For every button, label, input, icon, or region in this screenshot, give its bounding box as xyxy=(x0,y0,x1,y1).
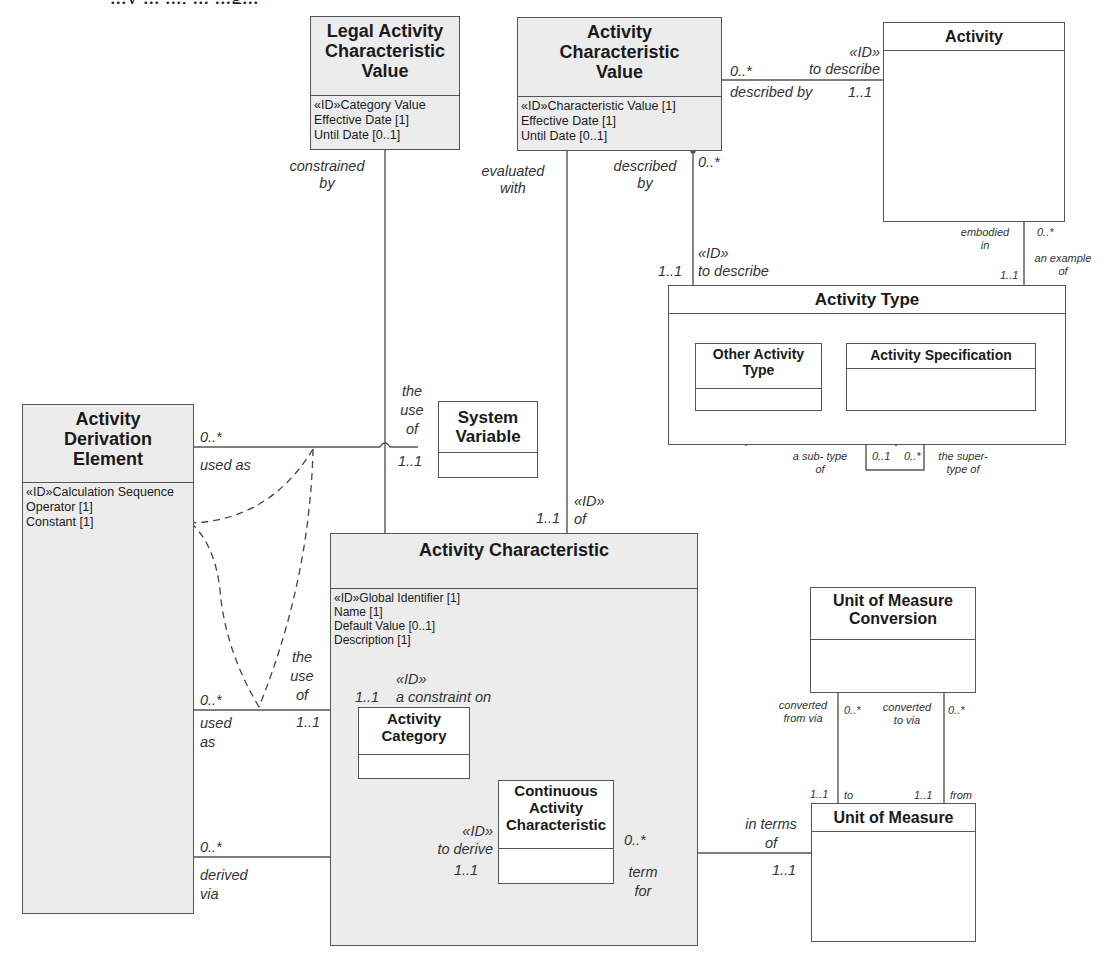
mult-subtype: 0..1 xyxy=(872,450,890,463)
mult-category: 1..1 xyxy=(355,689,379,706)
attribute: Default Value [0..1] xyxy=(334,619,694,633)
role-embodied-in: embodied in xyxy=(955,226,1015,252)
attribute: «ID»Characteristic Value [1] xyxy=(521,99,718,114)
class-attributes: «ID»Characteristic Value [1] Effective D… xyxy=(518,97,721,146)
class-system-variable[interactable]: System Variable xyxy=(438,401,538,478)
attribute: Name [1] xyxy=(334,605,694,619)
class-activity-category[interactable]: Activity Category xyxy=(358,707,470,779)
role-the-super-type-of: the super- type of xyxy=(928,450,998,476)
role-the-use-of-ac: the use of xyxy=(282,648,322,705)
class-title: Unit of Measure Conversion xyxy=(811,588,975,640)
class-unit-of-measure-conversion[interactable]: Unit of Measure Conversion xyxy=(810,587,976,693)
mult-conv-to: 0..* xyxy=(948,704,965,717)
class-attributes: «ID»Global Identifier [1] Name [1] Defau… xyxy=(331,589,697,649)
role-constrained-by: constrained by xyxy=(272,158,382,192)
class-title: Activity Characteristic Value xyxy=(518,18,721,97)
attribute: Effective Date [1] xyxy=(521,114,718,129)
attribute: Description [1] xyxy=(334,633,694,647)
mult-acv-type-bottom: 1..1 xyxy=(658,263,682,280)
class-title: Other Activity Type xyxy=(696,344,821,389)
class-title: Activity Specification xyxy=(847,344,1035,369)
class-title: Activity Characteristic xyxy=(331,534,697,589)
class-continuous-activity-characteristic[interactable]: Continuous Activity Characteristic xyxy=(498,780,614,884)
mult-activity-type-bottom: 1..1 xyxy=(1000,269,1018,282)
mult-cac-derive: 1..1 xyxy=(454,862,478,879)
class-activity[interactable]: Activity xyxy=(883,22,1065,222)
mult-uom-to: 1..1 xyxy=(810,788,828,801)
role-a-constraint-on: «ID» a constraint on xyxy=(396,670,491,706)
class-other-activity-type[interactable]: Other Activity Type xyxy=(695,343,822,411)
class-unit-of-measure[interactable]: Unit of Measure xyxy=(811,803,976,942)
class-activity-characteristic-value[interactable]: Activity Characteristic Value «ID»Charac… xyxy=(517,17,722,151)
class-attributes: «ID»Category Value Effective Date [1] Un… xyxy=(311,96,459,145)
mult-uom-from: 1..1 xyxy=(914,789,932,802)
class-title: System Variable xyxy=(439,402,537,453)
mult-ac-use: 1..1 xyxy=(296,714,320,731)
mult-cac-uom: 0..* xyxy=(624,832,646,849)
role-derived-via: derived via xyxy=(200,866,248,904)
mult-acv-activity-right: 1..1 xyxy=(848,84,872,101)
mult-conv-from: 0..* xyxy=(844,704,861,717)
class-attributes: «ID»Calculation Sequence Operator [1] Co… xyxy=(23,483,193,532)
role-term-for: term for xyxy=(618,863,668,901)
class-activity-specification[interactable]: Activity Specification xyxy=(846,343,1036,411)
role-to: to xyxy=(844,789,853,802)
mult-ade-ac: 0..* xyxy=(200,692,222,709)
mult-ac-of: 1..1 xyxy=(536,510,560,527)
attribute: Operator [1] xyxy=(26,500,190,515)
class-title: Activity Derivation Element xyxy=(23,405,193,483)
mult-supertype: 0..* xyxy=(904,450,921,463)
role-evaluated-with: evaluated with xyxy=(468,163,558,197)
mult-sysvar: 1..1 xyxy=(398,453,422,470)
class-title: Activity xyxy=(884,23,1064,51)
class-title: Activity Category xyxy=(359,708,469,755)
role-described-by-activity: described by xyxy=(730,84,812,101)
role-used-as-sysvar: used as xyxy=(200,457,251,474)
attribute: Constant [1] xyxy=(26,515,190,530)
class-activity-derivation-element[interactable]: Activity Derivation Element «ID»Calculat… xyxy=(22,404,194,914)
mult-acv-activity-left: 0..* xyxy=(730,63,752,80)
role-in-terms-of: in terms of xyxy=(736,815,806,853)
role-to-describe-activity: «ID» to describe xyxy=(790,44,880,78)
role-described-by-type: described by xyxy=(600,158,690,192)
attribute: «ID»Global Identifier [1] xyxy=(334,591,694,605)
role-to-describe-type: «ID» to describe xyxy=(698,244,769,280)
class-title: Continuous Activity Characteristic xyxy=(499,781,613,849)
mult-uom: 1..1 xyxy=(772,862,796,879)
class-title: Legal Activity Characteristic Value xyxy=(311,17,459,96)
attribute: Until Date [0..1] xyxy=(521,129,718,144)
role-the-use-of-sysvar: the use of xyxy=(392,382,432,439)
mult-ade-cac: 0..* xyxy=(200,839,222,856)
attribute: Until Date [0..1] xyxy=(314,128,456,143)
role-converted-from-via: converted from via xyxy=(772,699,834,725)
role-from: from xyxy=(950,789,972,802)
role-an-example-of: an example of xyxy=(1028,252,1098,278)
attribute: «ID»Category Value xyxy=(314,98,456,113)
attribute: Effective Date [1] xyxy=(314,113,456,128)
role-to-derive: «ID» to derive xyxy=(408,822,493,858)
mult-acv-type-top: 0..* xyxy=(698,154,720,171)
mult-ade-sysvar: 0..* xyxy=(200,429,222,446)
attribute: «ID»Calculation Sequence xyxy=(26,485,190,500)
class-title: Unit of Measure xyxy=(812,804,975,832)
role-a-sub-type-of: a sub- type of xyxy=(780,450,860,476)
role-used-as-ac: used as xyxy=(200,714,231,752)
mult-activity-type-top: 0..* xyxy=(1037,226,1054,239)
role-id-of: «ID» of xyxy=(574,492,605,528)
role-converted-to-via: converted to via xyxy=(876,701,938,727)
class-title: Activity Type xyxy=(669,286,1065,314)
class-legal-activity-characteristic-value[interactable]: Legal Activity Characteristic Value «ID»… xyxy=(310,16,460,150)
